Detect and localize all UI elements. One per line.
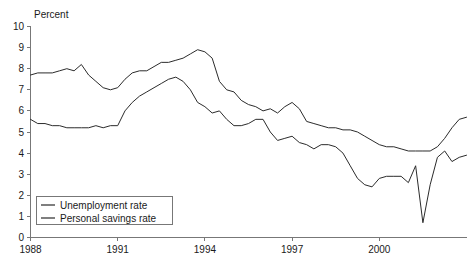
x-axis-ticks: 19881991199419972000 [19,238,390,256]
legend-label: Personal savings rate [60,213,157,224]
y-tick-label: 4 [18,148,24,159]
y-tick-label: 3 [18,169,24,180]
legend-label: Unemployment rate [60,200,148,211]
y-tick-label: 2 [18,190,24,201]
y-tick-label: 0 [18,232,24,243]
y-tick-label: 8 [18,63,24,74]
x-tick-label: 2000 [368,244,391,255]
chart-container: Percent 012345678910 1988199119941997200… [0,0,473,266]
x-tick-label: 1997 [281,244,304,255]
chart-legend: Unemployment ratePersonal savings rate [37,197,173,225]
y-tick-label: 6 [18,105,24,116]
series-line [31,50,467,151]
x-tick-label: 1991 [107,244,130,255]
y-axis-title: Percent [34,9,69,20]
y-tick-label: 10 [13,21,25,32]
line-chart: Percent 012345678910 1988199119941997200… [0,0,473,266]
x-tick-label: 1988 [19,244,42,255]
x-tick-label: 1994 [194,244,217,255]
y-tick-label: 5 [18,127,24,138]
y-tick-label: 1 [18,211,24,222]
y-tick-label: 9 [18,42,24,53]
y-axis-ticks: 012345678910 [13,21,31,243]
y-tick-label: 7 [18,84,24,95]
